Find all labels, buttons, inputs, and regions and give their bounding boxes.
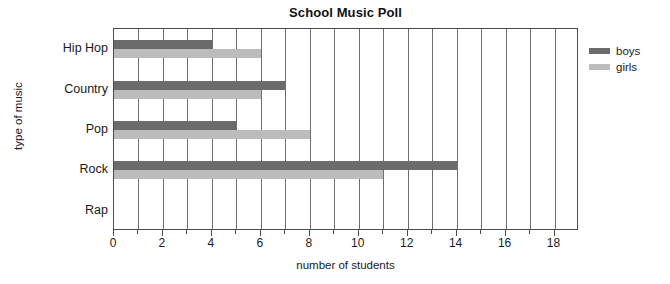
legend-swatch-icon xyxy=(589,64,610,70)
bar-boys-country xyxy=(114,81,285,90)
chart-container: School Music Poll Hip HopCountryPopRockR… xyxy=(0,0,670,284)
x-tick-label-14: 14 xyxy=(436,236,476,250)
x-minor-tick-mark xyxy=(284,230,285,234)
category-band xyxy=(114,110,577,150)
category-band xyxy=(114,150,577,190)
bar-girls-rock xyxy=(114,170,383,179)
x-tick-label-4: 4 xyxy=(191,236,231,250)
x-tick-label-6: 6 xyxy=(240,236,280,250)
chart-title: School Music Poll xyxy=(113,5,578,21)
x-tick-label-12: 12 xyxy=(387,236,427,250)
x-tick-label-18: 18 xyxy=(534,236,574,250)
bar-group xyxy=(114,121,577,139)
bar-girls-hip-hop xyxy=(114,49,261,58)
legend-item-boys[interactable]: boys xyxy=(589,44,667,58)
x-minor-tick-mark xyxy=(186,230,187,234)
category-band xyxy=(114,69,577,109)
bar-group xyxy=(114,202,577,220)
x-minor-tick-mark xyxy=(382,230,383,234)
x-minor-tick-mark xyxy=(529,230,530,234)
bar-boys-rock xyxy=(114,161,457,170)
category-band xyxy=(114,29,577,69)
bar-group xyxy=(114,40,577,58)
x-tick-label-8: 8 xyxy=(289,236,329,250)
chart-legend: boysgirls xyxy=(589,44,667,76)
x-minor-tick-mark xyxy=(235,230,236,234)
x-tick-label-16: 16 xyxy=(485,236,525,250)
bar-girls-pop xyxy=(114,130,310,139)
legend-label: girls xyxy=(616,60,637,74)
legend-item-girls[interactable]: girls xyxy=(589,60,667,74)
x-minor-tick-mark xyxy=(137,230,138,234)
x-tick-label-2: 2 xyxy=(142,236,182,250)
bar-girls-country xyxy=(114,90,261,99)
legend-label: boys xyxy=(616,44,640,58)
x-axis-title: number of students xyxy=(113,259,578,271)
category-band xyxy=(114,191,577,231)
x-tick-label-0: 0 xyxy=(93,236,133,250)
bar-boys-pop xyxy=(114,121,236,130)
x-minor-tick-mark xyxy=(431,230,432,234)
x-axis-ticks: 024681012141618 xyxy=(113,230,578,238)
y-tick-label-rap: Rap xyxy=(8,203,108,217)
x-minor-tick-mark xyxy=(480,230,481,234)
x-tick-label-10: 10 xyxy=(338,236,378,250)
bar-group xyxy=(114,161,577,179)
y-axis-title: type of music xyxy=(12,51,24,181)
bar-group xyxy=(114,81,577,99)
plot-area xyxy=(113,28,578,230)
bar-boys-hip-hop xyxy=(114,40,212,49)
legend-swatch-icon xyxy=(589,48,610,54)
x-minor-tick-mark xyxy=(333,230,334,234)
